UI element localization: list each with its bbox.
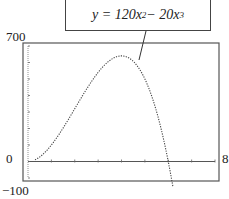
callout-pointer-line — [139, 31, 146, 60]
equation-prefix: y = 120x — [92, 7, 142, 23]
y-axis-max-label: 700 — [6, 30, 26, 43]
equation-mid: − 20x — [146, 7, 179, 23]
function-curve — [35, 56, 173, 187]
y-axis-zero-label: 0 — [6, 152, 13, 165]
plot-frame — [23, 43, 219, 181]
y-axis-min-label: −100 — [2, 184, 29, 197]
equation-exponent-3: 3 — [180, 10, 185, 20]
equation-callout: y = 120x2 − 20x3 — [65, 0, 211, 31]
x-axis-max-label: 8 — [222, 152, 229, 165]
